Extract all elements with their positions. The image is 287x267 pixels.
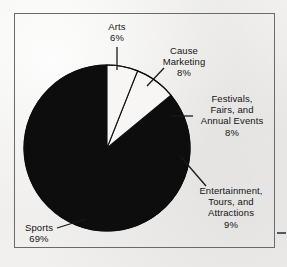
pie-label-festivals-line-0: Festivals,	[190, 93, 274, 104]
pie-label-festivals-value: 8%	[190, 127, 274, 138]
pie-label-cause-marketing-line-1: Marketing	[150, 56, 218, 67]
pie-label-cause-marketing-line-0: Cause	[150, 45, 218, 56]
pie-label-entertainment-tours-attractions: Entertainment, Tours, and Attractions 9%	[186, 185, 276, 230]
pie-chart-figure: Arts 6% Cause Marketing 8% Festivals, Fa…	[0, 0, 287, 267]
pie-label-cause-marketing-value: 8%	[150, 67, 218, 78]
pie-label-entertainment-line-1: Tours, and	[186, 196, 276, 207]
pie-label-festivals-line-2: Annual Events	[190, 115, 274, 126]
pie-label-festivals-fairs-annual-events: Festivals, Fairs, and Annual Events 8%	[190, 93, 274, 138]
pie-label-arts-line-0: Arts	[96, 21, 138, 32]
page-edge-tick-mark	[277, 232, 286, 234]
pie-label-arts: Arts 6%	[96, 21, 138, 43]
pie-label-sports-line-0: Sports	[18, 222, 60, 233]
pie-label-cause-marketing: Cause Marketing 8%	[150, 45, 218, 79]
pie-label-arts-value: 6%	[96, 32, 138, 43]
pie-label-entertainment-line-2: Attractions	[186, 207, 276, 218]
pie-label-entertainment-value: 9%	[186, 219, 276, 230]
pie-label-sports: Sports 69%	[18, 222, 60, 244]
pie-label-entertainment-line-0: Entertainment,	[186, 185, 276, 196]
pie-label-festivals-line-1: Fairs, and	[190, 104, 274, 115]
pie-label-sports-value: 69%	[18, 233, 60, 244]
